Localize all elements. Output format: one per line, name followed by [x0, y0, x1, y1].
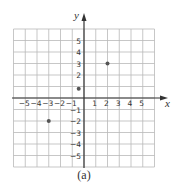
- y-tick-label: −3: [70, 129, 81, 138]
- y-tick-label: −4: [70, 140, 81, 149]
- coordinate-plane: x y −5−4−3−2−112345 5432−1−2−3−4−5: [0, 0, 179, 193]
- x-tick-labels: −5−4−3−2−112345: [19, 99, 145, 108]
- x-tick-label: −4: [30, 99, 41, 108]
- data-point: [47, 119, 51, 123]
- x-tick-label: 1: [92, 99, 97, 108]
- y-tick-label: 2: [76, 71, 81, 80]
- y-axis-arrowhead-icon: [82, 13, 87, 21]
- x-tick-label: −2: [54, 99, 65, 108]
- x-tick-label: 2: [104, 99, 109, 108]
- y-tick-label: −5: [70, 152, 81, 161]
- data-point: [77, 87, 81, 91]
- x-tick-label: 3: [116, 99, 121, 108]
- x-tick-label: −3: [42, 99, 53, 108]
- y-tick-label: 3: [76, 60, 81, 69]
- figure-caption: (a): [0, 168, 168, 183]
- x-axis-label: x: [164, 97, 170, 109]
- y-tick-label: −1: [70, 106, 81, 115]
- y-tick-label: −2: [70, 117, 81, 126]
- x-tick-label: −5: [19, 99, 30, 108]
- x-tick-label: 4: [128, 99, 133, 108]
- data-point: [106, 62, 110, 66]
- x-tick-label: 5: [139, 99, 144, 108]
- y-tick-label: 5: [76, 37, 81, 46]
- y-axis-label: y: [73, 9, 79, 21]
- y-tick-label: 4: [76, 48, 81, 57]
